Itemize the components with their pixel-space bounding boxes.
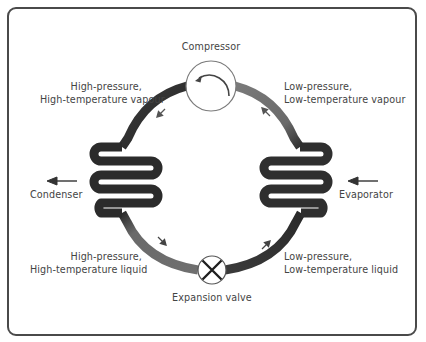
state-top-right-line1: Low-pressure, [284,80,405,93]
flow-arrow-top-left-icon [157,109,165,117]
condenser-label: Condenser [30,188,82,201]
compressor-label: Compressor [171,40,251,53]
state-top-left-line1: High-pressure, [40,80,142,93]
condenser-coil-icon [94,147,158,213]
flow-arrow-bottom-right-icon [262,241,270,249]
state-top-left: High-pressure, High-temperature vapour [40,80,142,106]
state-bottom-right-line1: Low-pressure, [284,250,398,263]
state-bottom-left: High-pressure, High-temperature liquid [30,250,142,276]
state-top-left-line2: High-temperature vapour [40,93,142,106]
expansion-valve-label: Expansion valve [162,291,262,304]
evaporator-label: Evaporator [339,188,393,201]
state-bottom-right-line2: Low-temperature liquid [284,263,398,276]
flow-arrow-bottom-left-icon [158,237,166,245]
state-bottom-left-line2: High-temperature liquid [30,263,142,276]
evaporator-coil-icon [264,147,328,213]
state-bottom-right: Low-pressure, Low-temperature liquid [284,250,398,276]
state-bottom-left-line1: High-pressure, [30,250,142,263]
state-top-right-line2: Low-temperature vapour [284,93,405,106]
evaporator-heat-in-arrow-icon [348,177,378,185]
condenser-heat-out-arrow-icon [47,177,77,185]
state-top-right: Low-pressure, Low-temperature vapour [284,80,405,106]
flow-arrow-top-right-icon [262,108,270,116]
compressor [186,61,236,111]
expansion-valve [198,256,226,284]
